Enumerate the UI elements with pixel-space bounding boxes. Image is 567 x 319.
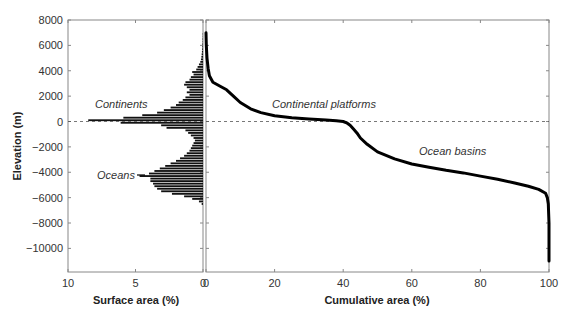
x-tick-label: 40	[337, 277, 349, 289]
histogram-bar	[202, 48, 203, 50]
x-tick-label: 0	[203, 277, 209, 289]
histogram-bar	[194, 142, 203, 144]
histogram-bar	[199, 201, 203, 203]
histogram-panel-frame	[68, 20, 203, 272]
y-tick-label: 2000	[39, 90, 63, 102]
histogram-bar	[200, 61, 203, 63]
histogram-bar	[195, 140, 203, 142]
histogram-bar	[157, 112, 203, 114]
x-tick-label: 80	[474, 277, 486, 289]
histogram-bar	[192, 71, 203, 73]
histogram-bar	[176, 160, 203, 162]
histogram-bar	[150, 180, 203, 182]
histogram-bar	[171, 162, 203, 164]
histogram-bar	[149, 173, 203, 175]
histogram-bar	[121, 122, 203, 124]
histogram-bar	[194, 137, 203, 139]
y-tick-label: −8000	[32, 217, 63, 229]
histogram-bar	[190, 89, 204, 91]
histogram-bar	[198, 66, 203, 68]
histogram-bar	[202, 203, 203, 205]
histogram-bar	[184, 84, 203, 86]
histogram-bar	[202, 46, 203, 48]
histogram-bar	[185, 96, 203, 98]
x-tick-label: 20	[268, 277, 280, 289]
histogram-bar	[154, 170, 203, 172]
histogram-bar	[153, 183, 203, 185]
histogram-bar	[191, 147, 203, 149]
histogram-bar	[172, 193, 203, 195]
histogram-bar	[190, 79, 204, 81]
histogram-bar	[154, 185, 203, 187]
histogram-bar	[202, 43, 203, 45]
histogram-bar	[171, 107, 203, 109]
histogram-bar	[188, 132, 203, 134]
histogram-bar	[164, 109, 203, 111]
y-tick-label: −2000	[32, 141, 63, 153]
histogram-bar	[160, 168, 203, 170]
histogram-bar	[184, 195, 203, 197]
histogram-bar	[165, 165, 203, 167]
histogram-bar	[180, 157, 203, 159]
y-axis-title: Elevation (m)	[11, 111, 23, 180]
curve-x-axis-title: Cumulative area (%)	[324, 294, 429, 306]
histogram-bar	[190, 150, 204, 152]
histogram-bar	[202, 53, 203, 55]
histogram-bar	[201, 58, 203, 60]
x-tick-label: 10	[62, 277, 74, 289]
histogram-bar	[88, 119, 203, 121]
histogram-bar	[185, 81, 203, 83]
histogram-bar	[191, 76, 203, 78]
histogram-bar	[142, 114, 203, 116]
histogram-bar	[161, 124, 203, 126]
x-tick-label: 60	[406, 277, 418, 289]
y-axis-ticks: 80006000400020000−2000−4000−6000−8000−10…	[26, 14, 549, 254]
histogram-bar	[202, 51, 203, 53]
histogram-bar	[196, 69, 203, 71]
hypsometric-curve-line	[206, 33, 549, 261]
y-tick-label: −4000	[32, 166, 63, 178]
histogram-bar	[183, 99, 203, 101]
y-tick-label: 6000	[39, 39, 63, 51]
annotation-continental-platforms: Continental platforms	[272, 98, 376, 110]
histogram-bar	[157, 188, 203, 190]
curve-panel-frame	[206, 20, 549, 272]
y-tick-label: −6000	[32, 192, 63, 204]
y-tick-label: 4000	[39, 65, 63, 77]
histogram-bar	[192, 198, 203, 200]
histogram-bar	[123, 117, 203, 119]
histogram-bar	[184, 155, 203, 157]
histogram-bar	[161, 190, 203, 192]
histogram-bar	[167, 127, 203, 129]
histogram-bar	[150, 178, 203, 180]
y-tick-label: −10000	[26, 242, 63, 254]
histogram-bar	[201, 56, 203, 58]
histogram-bar	[194, 74, 203, 76]
annotation-continents: Continents	[95, 98, 148, 110]
histogram-bar	[199, 63, 203, 65]
x-tick-label: 5	[132, 277, 138, 289]
histogram-bar	[140, 175, 203, 177]
y-tick-label: 0	[57, 116, 63, 128]
histogram-bar	[190, 94, 204, 96]
x-tick-label: 100	[540, 277, 558, 289]
histogram-bar	[187, 152, 203, 154]
histogram-bar	[187, 86, 203, 88]
figure: 80006000400020000−2000−4000−6000−8000−10…	[0, 0, 567, 319]
y-tick-label: 8000	[39, 14, 63, 26]
histogram-x-axis-ticks: 1050	[62, 20, 206, 289]
histogram-bar	[185, 129, 203, 131]
histogram-bar	[191, 135, 203, 137]
annotation-oceans: Oceans	[97, 169, 135, 181]
annotation-ocean-basins: Ocean basins	[419, 145, 487, 157]
histogram-bar	[176, 104, 203, 106]
histogram-bar	[179, 102, 203, 104]
histogram-x-axis-title: Surface area (%)	[93, 294, 180, 306]
histogram-bar	[192, 145, 203, 147]
histogram-bar	[187, 91, 203, 93]
